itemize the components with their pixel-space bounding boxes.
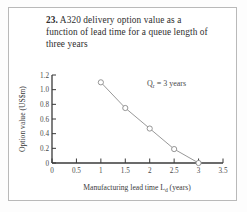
x-tick-label: 0.5 (72, 167, 81, 175)
x-tick-label: 2.5 (170, 167, 179, 175)
x-tick-label: 1 (99, 167, 103, 175)
chart-annotation: Qr = 3 years (147, 79, 186, 89)
caption-text: A320 delivery option value as a function… (46, 15, 208, 49)
x-tick-label: 3 (197, 167, 201, 175)
data-point (123, 105, 128, 110)
x-tick-label: 2 (148, 167, 152, 175)
y-tick-label: 0.2 (40, 145, 49, 153)
data-point (147, 126, 152, 131)
x-tick-label: 3.5 (219, 167, 228, 175)
x-tick-label: 1.5 (121, 167, 130, 175)
data-point (98, 80, 103, 85)
data-point (196, 160, 201, 165)
chart-plot-area: 1.2 1.0 0.8 0.6 0.4 0.2 0 0 0.5 1 1.5 (10, 62, 235, 207)
x-axis-title-main: Manufacturing lead time L (83, 183, 165, 192)
figure-caption: 23. A320 delivery option value as a func… (46, 14, 214, 51)
data-point (172, 146, 177, 151)
y-tick-label: 1.0 (40, 86, 49, 94)
x-tick-label: 0 (50, 167, 54, 175)
data-series-line (101, 82, 199, 163)
x-axis-title: Manufacturing lead time Ld (years) (83, 183, 191, 193)
figure-panel: 23. A320 delivery option value as a func… (0, 0, 247, 212)
caption-number: 23. (46, 15, 58, 25)
annotation-tail: = 3 years (155, 79, 186, 88)
y-tick-label: 0 (45, 160, 49, 168)
y-tick-label: 1.2 (40, 72, 49, 80)
svg-text:Qr = 3 years: Qr = 3 years (147, 79, 186, 89)
y-axis-title: Option value (US$m) (18, 86, 27, 152)
y-tick-label: 0.8 (40, 101, 49, 109)
y-tick-label: 0.6 (40, 116, 49, 124)
x-axis-title-suffix: (years) (168, 183, 191, 192)
data-markers (98, 80, 201, 166)
y-tick-label: 0.4 (40, 130, 49, 138)
